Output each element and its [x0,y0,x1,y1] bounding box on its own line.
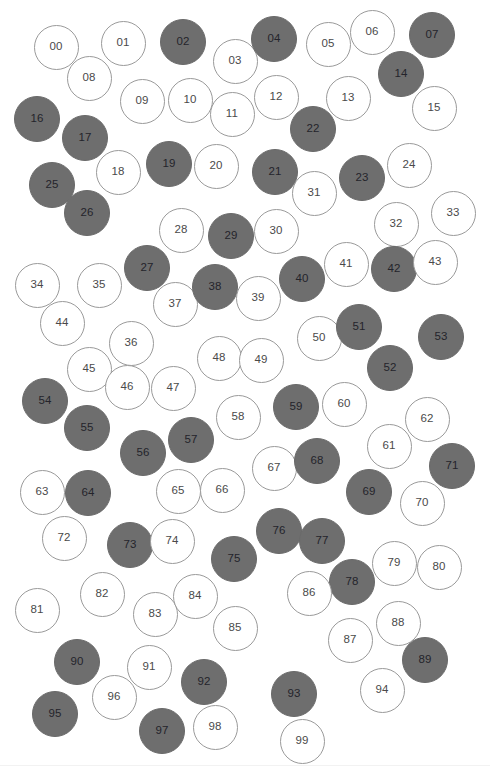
circle-node-27[interactable]: 27 [124,245,170,291]
circle-node-13[interactable]: 13 [326,76,371,121]
circle-node-28[interactable]: 28 [159,208,204,253]
circle-node-70[interactable]: 70 [400,481,445,526]
circle-node-54[interactable]: 54 [22,378,68,424]
circle-node-76[interactable]: 76 [256,508,302,554]
circle-node-60[interactable]: 60 [322,382,367,427]
circle-node-74[interactable]: 74 [150,519,195,564]
circle-node-39[interactable]: 39 [236,276,281,321]
circle-node-40[interactable]: 40 [279,256,325,302]
circle-node-19[interactable]: 19 [146,141,192,187]
circle-node-label: 74 [165,535,178,547]
circle-node-55[interactable]: 55 [64,405,110,451]
circle-node-34[interactable]: 34 [15,263,60,308]
circle-node-95[interactable]: 95 [32,691,78,737]
circle-node-02[interactable]: 02 [160,19,206,65]
circle-node-53[interactable]: 53 [418,314,464,360]
circle-node-35[interactable]: 35 [77,263,122,308]
circle-node-98[interactable]: 98 [193,705,238,750]
circle-node-63[interactable]: 63 [20,470,65,515]
circle-node-22[interactable]: 22 [290,106,336,152]
circle-node-87[interactable]: 87 [328,618,373,663]
circle-node-29[interactable]: 29 [208,213,254,259]
circle-node-57[interactable]: 57 [168,417,214,463]
circle-node-78[interactable]: 78 [329,559,375,605]
circle-node-04[interactable]: 04 [251,16,297,62]
circle-node-05[interactable]: 05 [306,22,351,67]
circle-node-18[interactable]: 18 [96,150,141,195]
circle-node-94[interactable]: 94 [360,668,405,713]
circle-node-20[interactable]: 20 [194,144,239,189]
circle-node-85[interactable]: 85 [213,606,258,651]
circle-node-26[interactable]: 26 [64,190,110,236]
circle-node-09[interactable]: 09 [120,79,165,124]
circle-node-73[interactable]: 73 [107,522,153,568]
circle-node-12[interactable]: 12 [254,75,299,120]
circle-node-92[interactable]: 92 [181,659,227,705]
circle-node-67[interactable]: 67 [252,446,297,491]
circle-node-46[interactable]: 46 [105,365,150,410]
circle-node-44[interactable]: 44 [40,301,85,346]
circle-node-32[interactable]: 32 [374,202,419,247]
circle-node-33[interactable]: 33 [431,191,476,236]
circle-node-66[interactable]: 66 [200,468,245,513]
circle-node-37[interactable]: 37 [153,282,198,327]
circle-node-79[interactable]: 79 [372,541,417,586]
circle-node-72[interactable]: 72 [42,516,87,561]
circle-node-14[interactable]: 14 [378,51,424,97]
circle-node-52[interactable]: 52 [367,345,413,391]
circle-node-50[interactable]: 50 [297,316,342,361]
circle-node-97[interactable]: 97 [139,708,185,754]
circle-node-58[interactable]: 58 [216,395,261,440]
circle-node-71[interactable]: 71 [429,443,475,489]
circle-node-49[interactable]: 49 [239,338,284,383]
circle-node-77[interactable]: 77 [299,518,345,564]
circle-node-15[interactable]: 15 [412,86,457,131]
circle-node-21[interactable]: 21 [252,149,298,195]
circle-node-68[interactable]: 68 [294,438,340,484]
circle-node-90[interactable]: 90 [54,639,100,685]
circle-node-93[interactable]: 93 [271,671,317,717]
circle-node-62[interactable]: 62 [405,397,450,442]
circle-node-31[interactable]: 31 [292,171,337,216]
circle-node-41[interactable]: 41 [324,242,369,287]
circle-node-23[interactable]: 23 [339,155,385,201]
circle-node-91[interactable]: 91 [127,645,172,690]
circle-node-17[interactable]: 17 [62,115,108,161]
circle-node-86[interactable]: 86 [287,571,332,616]
circle-node-label: 42 [387,263,400,275]
circle-node-89[interactable]: 89 [402,637,448,683]
circle-node-48[interactable]: 48 [197,336,242,381]
circle-node-96[interactable]: 96 [92,675,137,720]
circle-node-65[interactable]: 65 [156,469,201,514]
circle-node-03[interactable]: 03 [213,39,258,84]
circle-node-99[interactable]: 99 [280,719,325,764]
circle-node-61[interactable]: 61 [367,424,412,469]
circle-node-08[interactable]: 08 [67,56,112,101]
circle-node-81[interactable]: 81 [15,588,60,633]
circle-node-42[interactable]: 42 [371,246,417,292]
circle-node-56[interactable]: 56 [120,430,166,476]
circle-node-47[interactable]: 47 [151,366,196,411]
circle-node-11[interactable]: 11 [210,92,255,137]
circle-node-82[interactable]: 82 [80,572,125,617]
circle-node-43[interactable]: 43 [413,240,458,285]
circle-node-16[interactable]: 16 [14,96,60,142]
circle-node-06[interactable]: 06 [350,10,395,55]
circle-node-51[interactable]: 51 [336,304,382,350]
circle-node-36[interactable]: 36 [109,321,154,366]
circle-node-07[interactable]: 07 [409,12,455,58]
circle-node-10[interactable]: 10 [168,78,213,123]
circle-node-64[interactable]: 64 [65,470,111,516]
circle-node-38[interactable]: 38 [192,264,238,310]
circle-node-24[interactable]: 24 [387,143,432,188]
circle-node-83[interactable]: 83 [133,592,178,637]
circle-node-84[interactable]: 84 [173,574,218,619]
circle-node-75[interactable]: 75 [211,536,257,582]
circle-node-80[interactable]: 80 [417,545,462,590]
circle-node-69[interactable]: 69 [346,469,392,515]
circle-node-label: 58 [231,411,244,423]
circle-node-01[interactable]: 01 [101,21,146,66]
circle-node-label: 16 [30,113,43,125]
circle-node-30[interactable]: 30 [254,209,299,254]
circle-node-59[interactable]: 59 [273,384,319,430]
